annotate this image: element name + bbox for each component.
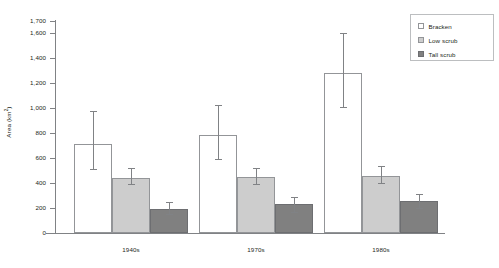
legend-swatch-bracken — [418, 23, 424, 29]
legend-swatch-tall-scrub — [418, 51, 424, 57]
bar-low-scrub-1940s — [112, 178, 150, 233]
error-bar-cap-upper — [378, 166, 385, 167]
error-bar-cap-upper — [166, 202, 173, 203]
legend-item-tall-scrub: Tall scrub — [418, 49, 456, 59]
error-bar-stem-tall-scrub-1980s — [419, 194, 420, 208]
error-bar-stem-bracken-1970s — [218, 105, 219, 160]
bar-low-scrub-1980s — [362, 176, 400, 233]
y-axis-tick — [50, 183, 56, 184]
x-axis-tick-label: 1940s — [101, 246, 161, 253]
legend-label-low-scrub: Low scrub — [429, 37, 458, 44]
legend-item-bracken: Bracken — [418, 21, 452, 31]
error-bar-cap-lower — [253, 184, 260, 185]
error-bar-stem-bracken-1940s — [93, 111, 94, 169]
error-bar-cap-upper — [90, 111, 97, 112]
error-bar-cap-lower — [128, 184, 135, 185]
y-axis-tick — [50, 33, 56, 34]
y-axis-line — [55, 20, 56, 234]
y-axis-tick-label: 1,200 — [0, 79, 46, 86]
y-axis-tick — [50, 133, 56, 134]
error-bar-cap-upper — [253, 168, 260, 169]
y-axis-tick-label: 1,400 — [0, 54, 46, 61]
y-axis-tick-label: 1,000 — [0, 104, 46, 111]
y-axis-tick-label: 200 — [0, 204, 46, 211]
y-axis-tick-label: 1,600 — [0, 29, 46, 36]
error-bar-stem-low-scrub-1970s — [256, 168, 257, 184]
x-axis-tick-label: 1980s — [351, 246, 411, 253]
y-axis-tick — [50, 233, 56, 234]
error-bar-cap-upper — [215, 105, 222, 106]
bar-low-scrub-1970s — [237, 177, 275, 233]
y-axis-tick — [50, 208, 56, 209]
y-axis-tick — [50, 58, 56, 59]
y-axis-tick-label: 600 — [0, 154, 46, 161]
y-axis-tick-label: 800 — [0, 129, 46, 136]
error-bar-cap-lower — [215, 159, 222, 160]
error-bar-stem-low-scrub-1940s — [131, 168, 132, 184]
legend-swatch-low-scrub — [418, 37, 424, 43]
y-axis-tick — [50, 108, 56, 109]
error-bar-stem-tall-scrub-1940s — [169, 202, 170, 214]
error-bar-cap-lower — [340, 107, 347, 108]
y-axis-tick-label: 400 — [0, 179, 46, 186]
error-bar-stem-bracken-1980s — [343, 33, 344, 107]
y-axis-tick-label: 1,700 — [0, 17, 46, 24]
error-bar-cap-lower — [291, 212, 298, 213]
error-bar-cap-lower — [416, 208, 423, 209]
error-bar-cap-upper — [340, 33, 347, 34]
error-bar-stem-low-scrub-1980s — [381, 166, 382, 183]
bar-chart-figure: Area (km2) 02004006008001,0001,2001,4001… — [0, 0, 499, 268]
error-bar-cap-lower — [378, 183, 385, 184]
chart-legend: Bracken Low scrub Tall scrub — [410, 14, 494, 61]
error-bar-cap-upper — [128, 168, 135, 169]
error-bar-cap-upper — [291, 197, 298, 198]
legend-label-tall-scrub: Tall scrub — [429, 51, 456, 58]
y-axis-tick — [50, 158, 56, 159]
legend-label-bracken: Bracken — [429, 23, 452, 30]
y-axis-tick — [50, 21, 56, 22]
error-bar-stem-tall-scrub-1970s — [294, 197, 295, 212]
x-axis-tick-label: 1970s — [226, 246, 286, 253]
y-axis-tick-label: 0 — [0, 229, 46, 236]
x-axis-line — [46, 233, 445, 234]
error-bar-cap-lower — [166, 214, 173, 215]
error-bar-cap-upper — [416, 194, 423, 195]
error-bar-cap-lower — [90, 169, 97, 170]
y-axis-tick — [50, 83, 56, 84]
legend-item-low-scrub: Low scrub — [418, 35, 458, 45]
